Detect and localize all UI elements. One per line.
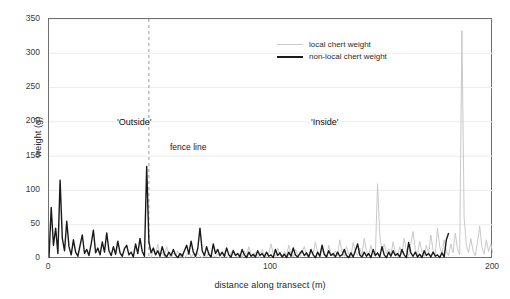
y-tick-50: 50 xyxy=(14,219,40,228)
y-tick-100: 100 xyxy=(14,185,40,194)
x-axis-title: distance along transect (m) xyxy=(155,280,385,290)
y-tick-200: 200 xyxy=(14,116,40,125)
y-tick-300: 300 xyxy=(14,48,40,57)
legend: local chert weight non-local chert weigh… xyxy=(277,39,387,63)
y-tick-350: 350 xyxy=(14,14,40,23)
series-non-local-chert-weight xyxy=(49,166,449,257)
legend-item-nonlocal: non-local chert weight xyxy=(277,51,387,62)
y-axis-tick-labels: 350 300 250 200 150 100 50 0 xyxy=(0,0,44,299)
chart-figure: weight (g) 350 300 250 200 150 100 50 0 … xyxy=(0,0,510,299)
y-tick-250: 250 xyxy=(14,82,40,91)
y-tick-150: 150 xyxy=(14,151,40,160)
gridlines xyxy=(49,19,493,225)
outside-annotation: 'Outside' xyxy=(117,117,151,127)
local-line-swatch-icon xyxy=(277,44,303,45)
legend-item-local: local chert weight xyxy=(277,39,387,50)
y-tick-0: 0 xyxy=(14,253,40,262)
x-tick-0: 0 xyxy=(33,262,63,271)
legend-label-nonlocal: non-local chert weight xyxy=(309,51,387,62)
legend-label-local: local chert weight xyxy=(309,39,371,50)
plot-area: 'Outside' 'Inside' fence line local cher… xyxy=(48,18,492,258)
x-tick-200: 200 xyxy=(477,262,507,271)
inside-annotation: 'Inside' xyxy=(311,117,338,127)
nonlocal-line-swatch-icon xyxy=(277,56,303,58)
plot-canvas xyxy=(49,19,493,259)
x-tick-100: 100 xyxy=(255,262,285,271)
fence-line-annotation: fence line xyxy=(170,142,206,152)
